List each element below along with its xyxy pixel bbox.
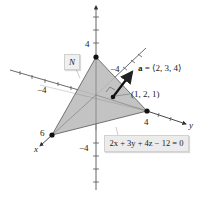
n-label-leader	[76, 69, 80, 78]
y-intercept-point	[144, 108, 149, 113]
plane-diagram: 4 −4 −4 −4 6 4 x y a = ⟨2, 3, 4⟩ (1, 2, …	[0, 0, 206, 199]
x-tick-label-6: 6	[40, 128, 45, 138]
vector-label-rest: = ⟨2, 3, 4⟩	[143, 63, 182, 73]
y-axis-label: y	[188, 120, 193, 130]
plane-label-n: N	[64, 54, 80, 70]
y-axis-positive	[147, 111, 186, 124]
x-axis-label: x	[33, 144, 38, 154]
vector-label: a = ⟨2, 3, 4⟩	[138, 63, 182, 73]
z-intercept-point	[93, 54, 98, 59]
y-tick-label-neg4: −4	[110, 64, 120, 74]
z-tick-label-neg4: −4	[79, 143, 89, 153]
equation-label: 2x + 3y + 4z − 12 = 0	[104, 135, 189, 152]
y-tick-label-4: 4	[144, 117, 149, 127]
z-tick-label-4: 4	[85, 39, 90, 49]
x-tick-label-neg4: −4	[37, 85, 47, 95]
point-label: (1, 2, 1)	[131, 89, 160, 99]
x-intercept-point	[49, 132, 54, 137]
diagram-canvas: 4 −4 −4 −4 6 4 x y a = ⟨2, 3, 4⟩ (1, 2, …	[0, 0, 206, 199]
equation-label-leader	[116, 127, 118, 135]
